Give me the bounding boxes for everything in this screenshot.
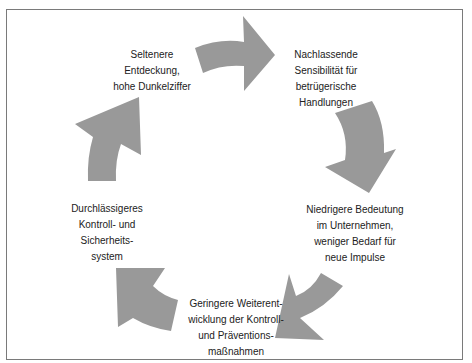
node-label-n2: Nachlassende Sensibilität für betrügeris… — [278, 47, 374, 111]
arrow-up-left-icon — [116, 268, 178, 331]
arrow-right-icon — [195, 16, 275, 91]
node-label-n3: Niedrigere Bedeutung im Unternehmen, wen… — [290, 202, 420, 266]
arrow-up-icon — [75, 97, 141, 181]
node-label-n5: Durchlässigeres Kontroll- und Sicherheit… — [55, 201, 159, 265]
node-label-n4: Geringere Weiterent- wicklung der Kontro… — [176, 296, 296, 360]
node-label-n1: Seltenere Entdeckung, hohe Dunkelziffer — [100, 47, 204, 95]
arrow-down-right-icon — [325, 101, 396, 193]
